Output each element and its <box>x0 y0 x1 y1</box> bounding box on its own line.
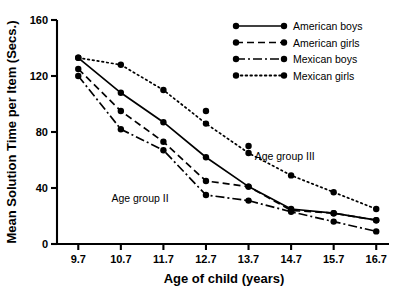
x-tick-label: 12.7 <box>195 253 216 265</box>
y-tick-label: 160 <box>30 14 48 26</box>
plot-annotation: Age group III <box>255 150 315 162</box>
x-tick-label: 15.7 <box>323 253 344 265</box>
x-tick-label: 14.7 <box>280 253 301 265</box>
data-point <box>160 139 166 145</box>
data-point <box>118 62 124 68</box>
legend-marker-end <box>281 23 287 29</box>
data-point <box>160 87 166 93</box>
legend-marker-start <box>233 39 239 45</box>
x-tick-label: 10.7 <box>110 253 131 265</box>
y-tick-label: 0 <box>42 238 48 250</box>
data-point <box>160 119 166 125</box>
data-point <box>203 178 209 184</box>
legend-marker-end <box>281 56 287 62</box>
data-point <box>373 228 379 234</box>
legend-marker-start <box>233 56 239 62</box>
data-point <box>330 218 336 224</box>
data-point <box>330 189 336 195</box>
line-chart-canvas: 04080120160 9.710.711.712.713.714.715.71… <box>0 0 398 292</box>
chart-figure: 04080120160 9.710.711.712.713.714.715.71… <box>0 0 398 292</box>
x-tick-label: 9.7 <box>71 253 86 265</box>
legend-marker-end <box>281 39 287 45</box>
data-point <box>203 120 209 126</box>
data-point-extra <box>203 108 209 114</box>
x-axis-title: Age of child (years) <box>164 271 285 286</box>
data-point <box>373 217 379 223</box>
y-tick-label: 80 <box>36 126 48 138</box>
data-point <box>118 126 124 132</box>
x-tick-label: 11.7 <box>153 253 174 265</box>
legend-label: American boys <box>293 20 362 32</box>
data-point <box>245 183 251 189</box>
x-tick-label: 16.7 <box>366 253 387 265</box>
x-tick-label: 13.7 <box>238 253 259 265</box>
data-point <box>160 147 166 153</box>
data-point <box>288 209 294 215</box>
legend-label: Mexican girls <box>293 70 354 82</box>
data-point <box>75 73 81 79</box>
y-axis-title: Mean Solution Time per Item (Secs.) <box>4 21 19 244</box>
data-point <box>245 197 251 203</box>
data-point <box>288 172 294 178</box>
legend-marker-end <box>281 72 287 78</box>
data-point-extra <box>245 143 251 149</box>
data-point <box>373 206 379 212</box>
y-tick-label: 40 <box>36 182 48 194</box>
data-point <box>245 150 251 156</box>
legend-label: American girls <box>293 37 360 49</box>
legend-label: Mexican boys <box>293 53 357 65</box>
data-point <box>118 90 124 96</box>
y-tick-label: 120 <box>30 70 48 82</box>
data-point <box>330 210 336 216</box>
data-point <box>75 66 81 72</box>
data-point <box>203 154 209 160</box>
data-point <box>118 108 124 114</box>
data-point <box>203 192 209 198</box>
legend-marker-start <box>233 72 239 78</box>
plot-annotation: Age group II <box>111 192 168 204</box>
data-point <box>75 55 81 61</box>
legend-marker-start <box>233 23 239 29</box>
